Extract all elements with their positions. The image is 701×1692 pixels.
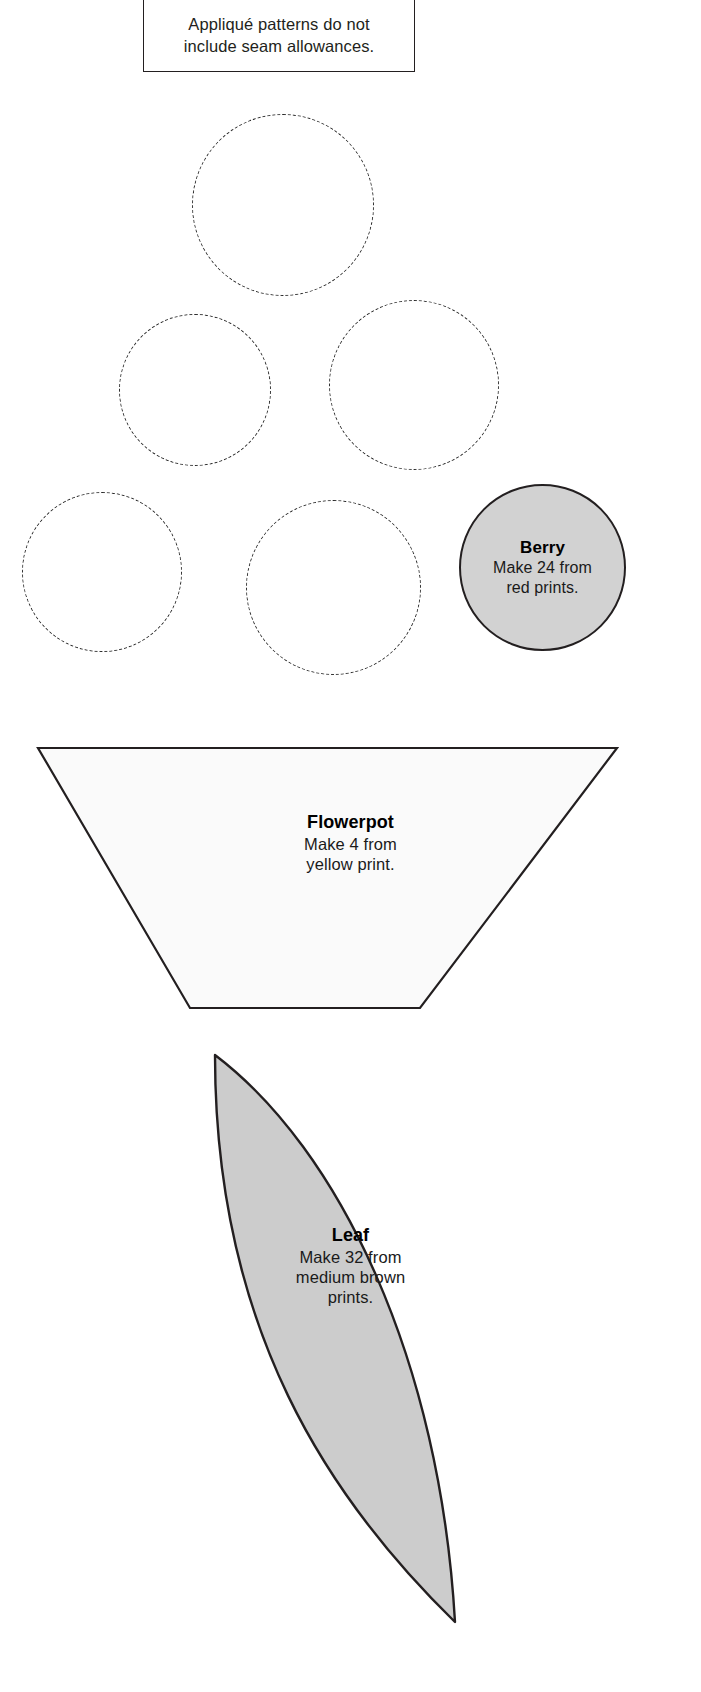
flower-circle-2 (119, 314, 271, 466)
seam-allowance-note-box: Appliqué patterns do not include seam al… (143, 0, 415, 72)
seam-allowance-note-text: Appliqué patterns do not include seam al… (178, 14, 380, 57)
flower-circle-4 (22, 492, 182, 652)
berry-piece: Berry Make 24 from red prints. (459, 484, 626, 651)
flowerpot-shape (38, 748, 617, 1008)
flower-circle-5 (246, 500, 421, 675)
appliqu-pattern-sheet: Appliqué patterns do not include seam al… (0, 0, 701, 1692)
note-line-2: include seam allowances. (184, 37, 374, 55)
leaf-piece (0, 1030, 701, 1650)
note-line-1: Appliqué patterns do not (188, 15, 369, 33)
flower-circle-3 (329, 300, 499, 470)
leaf-shape (215, 1055, 455, 1622)
berry-sub-line-2: red prints. (506, 578, 578, 598)
flowerpot-piece (0, 660, 701, 1040)
berry-sub-line-1: Make 24 from (493, 558, 592, 578)
berry-title: Berry (520, 538, 565, 559)
flower-circle-1 (192, 114, 374, 296)
